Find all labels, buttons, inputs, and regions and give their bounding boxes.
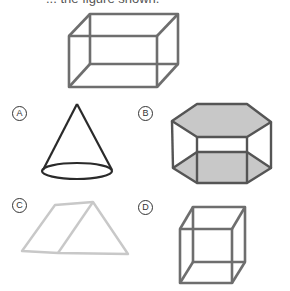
rectangular-prism-figure (69, 14, 178, 87)
option-a-cone[interactable] (42, 104, 112, 179)
option-b-label[interactable]: B (138, 106, 153, 121)
option-b-hexagonal-prism[interactable] (172, 104, 271, 183)
option-d-label[interactable]: D (138, 200, 153, 215)
figures-canvas (0, 0, 290, 291)
option-d-rectangular-prism[interactable] (180, 207, 245, 283)
option-c-triangular-prism[interactable] (22, 202, 128, 254)
option-c-label[interactable]: C (12, 198, 27, 213)
option-a-label[interactable]: A (12, 106, 27, 121)
